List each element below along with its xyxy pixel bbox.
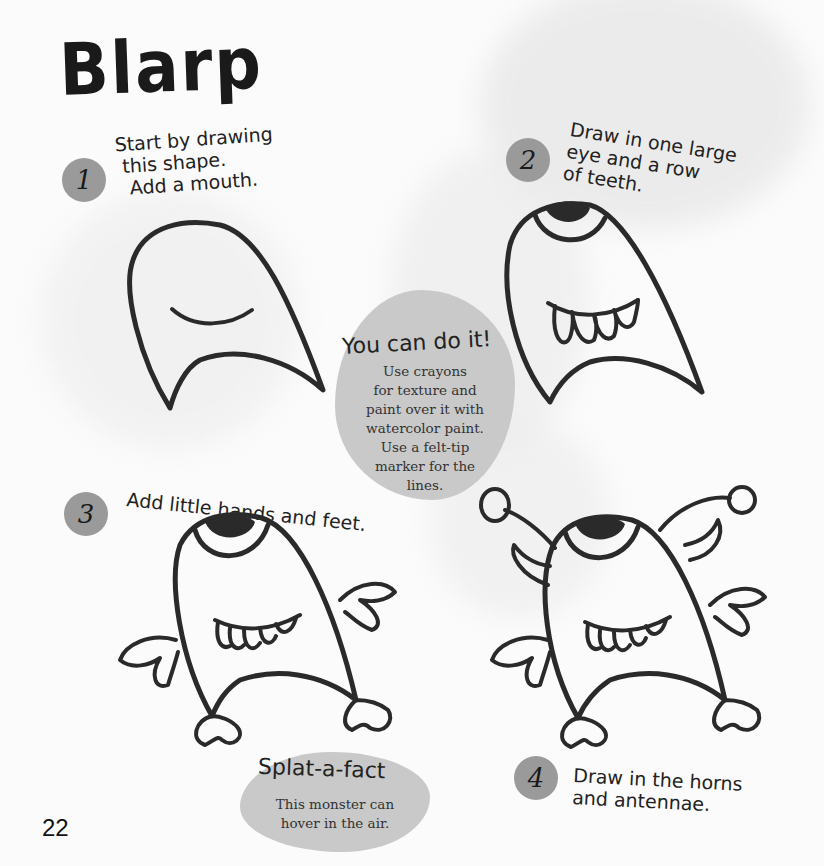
fact-line: hover in the air. xyxy=(240,814,430,833)
step-badge-4: 4 xyxy=(514,756,558,800)
step-4-instruction: Draw in the horns and antennae. xyxy=(572,764,743,817)
book-page: Blarp 1 Start by drawing this shape. Add… xyxy=(0,0,824,866)
fact-line: This monster can xyxy=(240,795,430,814)
step-4-drawing xyxy=(0,0,824,866)
step-number: 4 xyxy=(528,763,545,793)
fact-heading: Splat-a-fact xyxy=(258,756,386,782)
page-number: 22 xyxy=(42,814,69,842)
fact-body: This monster can hover in the air. xyxy=(240,795,430,833)
